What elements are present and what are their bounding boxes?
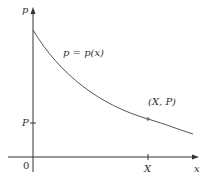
diagram-canvas: [0, 0, 207, 183]
y-axis-arrow-icon: [31, 7, 36, 14]
demand-curve-diagram: p x 0 p = p(x) (X, P) X P: [0, 0, 207, 183]
x-axis-label: x: [194, 164, 200, 174]
point-xp: [146, 117, 150, 121]
y-axis-label: p: [22, 5, 28, 15]
x-axis-arrow-icon: [192, 155, 199, 160]
point-label: (X, P): [148, 97, 176, 107]
origin-label: 0: [23, 161, 29, 171]
demand-curve: [33, 30, 193, 134]
curve-label: p = p(x): [63, 48, 104, 58]
y-tick-label: P: [22, 118, 29, 128]
x-tick-label: X: [144, 164, 151, 174]
